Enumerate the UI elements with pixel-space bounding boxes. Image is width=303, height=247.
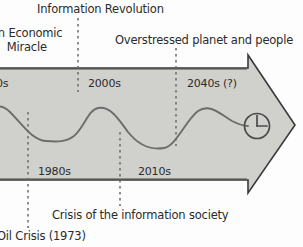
callout-economic-miracle-line2: Miracle — [0, 40, 62, 54]
diagram-canvas: Information Revolution an Economic Mirac… — [0, 0, 303, 247]
era-label-bottom-1: 1980s — [38, 165, 71, 179]
callout-economic-miracle-line1: an Economic — [0, 26, 62, 40]
callout-information-revolution: Information Revolution — [37, 2, 164, 16]
callout-crisis-information-society: Crisis of the information society — [52, 208, 228, 222]
era-label-top-3: 2040s (?) — [187, 77, 237, 91]
era-label-top-1: 0s — [0, 77, 8, 91]
era-label-bottom-2: 2010s — [138, 165, 171, 179]
callout-overstressed-planet: Overstressed planet and people — [115, 33, 293, 47]
era-label-top-2: 2000s — [88, 77, 121, 91]
callout-economic-miracle: an Economic Miracle — [0, 26, 62, 55]
callout-oil-crisis: Oil Crisis (1973) — [0, 229, 86, 243]
